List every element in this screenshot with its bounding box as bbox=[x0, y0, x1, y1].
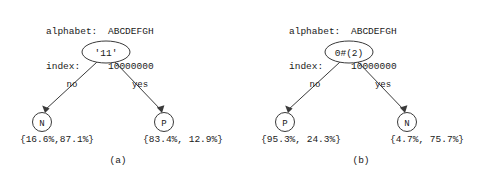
panel-b-right-leaf-percentages: {4.7%, 75.7%} bbox=[390, 134, 464, 145]
panel-a-tree-graphic: '11' no yes N P {16.6%,87.1%} {83.4%, 12… bbox=[0, 0, 243, 172]
panel-b-left-leaf-percentages: {95.3%, 24.3%} bbox=[261, 134, 341, 145]
panel-b-edge-label-no: no bbox=[310, 80, 321, 90]
panel-a-right-leaf-percentages: {83.4%, 12.9%} bbox=[143, 134, 223, 145]
panel-a-left-leaf-label: N bbox=[39, 119, 44, 129]
figure-panel-b: alphabet:ABCDEFGH index:10000000 0#(2) n… bbox=[243, 0, 486, 172]
panel-a-edge-label-yes: yes bbox=[132, 80, 148, 90]
panel-b-tree-graphic: 0#(2) no yes P N {95.3%, 24.3%} {4.7%, 7… bbox=[243, 0, 486, 172]
panel-a-caption: (a) bbox=[109, 155, 126, 166]
panel-a-root-label: '11' bbox=[95, 48, 118, 59]
panel-b-root-label: 0#(2) bbox=[335, 48, 364, 59]
panel-b-caption: (b) bbox=[352, 155, 369, 166]
panel-a-right-leaf-label: P bbox=[161, 119, 166, 129]
panel-a-edge-label-no: no bbox=[67, 80, 78, 90]
panel-b-right-leaf-label: N bbox=[404, 119, 409, 129]
decision-tree-figure: alphabet:ABCDEFGH index:10000000 '11' no… bbox=[0, 0, 486, 172]
panel-a-left-leaf-percentages: {16.6%,87.1%} bbox=[20, 134, 94, 145]
figure-panel-a: alphabet:ABCDEFGH index:10000000 '11' no… bbox=[0, 0, 243, 172]
panel-b-edge-label-yes: yes bbox=[375, 80, 391, 90]
panel-b-left-leaf-label: P bbox=[282, 119, 287, 129]
